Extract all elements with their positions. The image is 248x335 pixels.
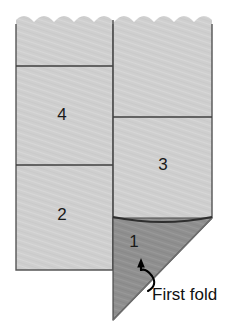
- panel-label-3: 3: [158, 155, 167, 174]
- diagram-canvas: 4 2 3 1 First fold: [0, 0, 248, 335]
- left-column-group: [16, 12, 113, 270]
- right-column-group: [113, 12, 212, 218]
- panel-label-4: 4: [57, 105, 66, 124]
- panel-label-1: 1: [129, 232, 138, 251]
- left-column-body: [16, 12, 113, 270]
- first-fold-caption: First fold: [152, 285, 217, 304]
- panel-label-2: 2: [57, 205, 66, 224]
- paper-fold-diagram: 4 2 3 1 First fold: [0, 0, 248, 335]
- right-column-body: [113, 12, 212, 218]
